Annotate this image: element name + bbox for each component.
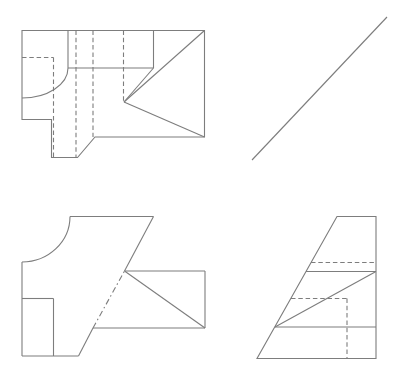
view-bottom-left [22,217,205,357]
view-top-left [22,31,205,158]
visible-edge-line [79,328,94,356]
outline-path [257,217,376,359]
visible-edge-line [124,31,205,103]
visible-edge-line [124,68,154,102]
visible-edge-line [252,17,387,160]
technical-drawing-page [0,0,405,385]
line-top-right [252,17,387,160]
visible-edge-line [124,102,205,137]
view-bottom-right [257,217,376,359]
drawing-canvas [0,0,405,385]
visible-edge-line [125,271,206,328]
fillet-arc [22,68,68,98]
hidden-dashdot-line [93,271,125,328]
outline-path [22,31,205,158]
fillet-arc [22,217,70,263]
visible-edge-line [125,217,154,272]
